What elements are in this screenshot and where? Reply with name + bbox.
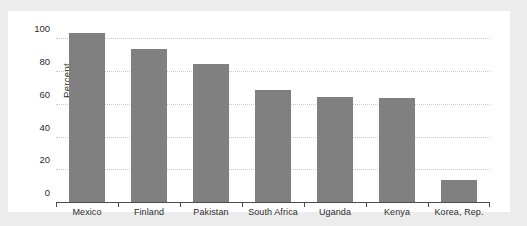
x-axis-category-label: Finland bbox=[118, 207, 180, 217]
y-axis-tick-label: 60 bbox=[39, 88, 50, 99]
x-axis-category-label: Pakistan bbox=[180, 207, 242, 217]
y-axis-tick-label: 100 bbox=[34, 23, 50, 34]
chart-card: Percent 020406080100 MexicoFinlandPakist… bbox=[8, 11, 510, 212]
bar-cell bbox=[304, 23, 366, 203]
cropped-caption-remnant bbox=[0, 0, 527, 9]
bar bbox=[69, 33, 105, 203]
bar-cell bbox=[428, 23, 490, 203]
x-axis-line bbox=[56, 202, 490, 203]
bar-cell bbox=[242, 23, 304, 203]
bar-cell bbox=[118, 23, 180, 203]
x-axis-labels: MexicoFinlandPakistanSouth AfricaUgandaK… bbox=[56, 207, 490, 217]
bar bbox=[441, 180, 477, 203]
x-axis-category-label: Korea, Rep. bbox=[428, 207, 490, 217]
bar bbox=[255, 90, 291, 203]
bar bbox=[131, 49, 167, 203]
x-axis-category-label: Mexico bbox=[56, 207, 118, 217]
x-axis-category-label: Uganda bbox=[304, 207, 366, 217]
bar bbox=[193, 64, 229, 203]
bar-series bbox=[56, 23, 490, 203]
y-axis-tick-label: 20 bbox=[39, 154, 50, 165]
y-axis-tick-label: 40 bbox=[39, 121, 50, 132]
bar-cell bbox=[366, 23, 428, 203]
bar bbox=[317, 97, 353, 203]
page-background: Percent 020406080100 MexicoFinlandPakist… bbox=[0, 0, 527, 226]
x-axis-category-label: Kenya bbox=[366, 207, 428, 217]
plot-area: Percent 020406080100 bbox=[56, 23, 490, 203]
bar bbox=[379, 98, 415, 203]
y-axis-tick-label: 80 bbox=[39, 56, 50, 67]
bar-cell bbox=[180, 23, 242, 203]
y-axis-tick-label: 0 bbox=[45, 187, 50, 198]
bar-cell bbox=[56, 23, 118, 203]
x-axis-category-label: South Africa bbox=[242, 207, 304, 217]
